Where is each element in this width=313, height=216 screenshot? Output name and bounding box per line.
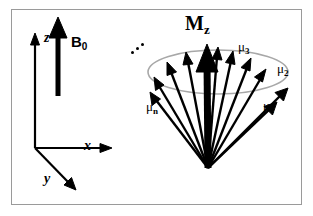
x-axis-label: x [84,139,91,153]
mun-label: μn [146,100,158,113]
z-axis-label: z [44,31,49,45]
mun-symbol: μ [146,99,153,114]
mu2-label: μ2 [277,62,288,75]
moment-vector [167,62,208,168]
mu2-symbol: μ [277,61,284,76]
z-axis-arrowhead [31,33,40,45]
mu3-label: μ3 [238,40,249,53]
b0-subscript: 0 [82,41,88,52]
moment-vector [150,92,208,168]
coordinate-axes [31,33,113,190]
y-axis-label: y [44,172,50,186]
mz-subscript: z [204,22,210,37]
y-axis-line [35,148,69,183]
omitted-moments-ellipsis [131,41,153,57]
mz-shaft [207,62,208,168]
b0-arrowhead [49,17,67,38]
ellipsis-dot [136,47,139,50]
ellipsis-dot [131,51,134,54]
mu1-label: μ1 [263,99,274,112]
mu3-subscript: 3 [245,46,250,56]
x-axis-arrowhead [100,144,112,153]
mz-magnetization-label: Mz [185,13,210,33]
mu3-symbol: μ [238,39,245,54]
mu1-subscript: 1 [270,105,275,115]
b0-field-arrow [49,17,67,96]
mu2-subscript: 2 [284,68,289,78]
mz-symbol: M [185,12,204,34]
mu1-symbol: μ [263,98,270,113]
mun-subscript: n [153,106,158,116]
b0-field-label: B0 [71,34,87,49]
b0-symbol: B [71,33,82,50]
magnetization-cone-figure: z x y B0 Mz μ1 μ2 μ3 μn [0,0,313,216]
ellipsis-dot [141,43,144,46]
